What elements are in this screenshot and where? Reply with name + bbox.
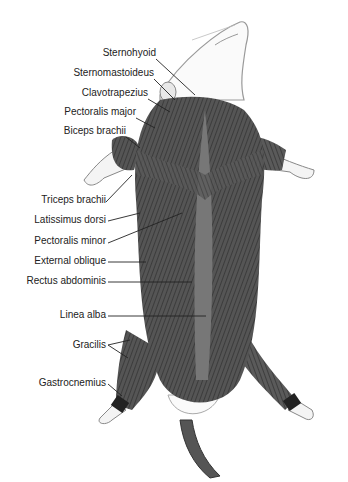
tail (168, 395, 220, 478)
label-clavotrapezius: Clavotrapezius (82, 87, 148, 99)
label-rectus-abdominis: Rectus abdominis (27, 275, 106, 287)
label-triceps-brachii: Triceps brachii (41, 194, 106, 206)
torso (135, 97, 264, 403)
label-pectoralis-minor: Pectoralis minor (34, 235, 106, 247)
label-sternomastoideus: Sternomastoideus (73, 67, 154, 79)
label-pectoralis-major: Pectoralis major (64, 106, 136, 118)
label-sternohyoid: Sternohyoid (103, 47, 156, 59)
label-latissimus-dorsi: Latissimus dorsi (34, 214, 106, 226)
label-linea-alba: Linea alba (60, 309, 106, 321)
label-external-oblique: External oblique (34, 255, 106, 267)
head (160, 22, 248, 102)
label-gastrocnemius: Gastrocnemius (39, 377, 106, 389)
label-gracilis: Gracilis (73, 339, 106, 351)
label-biceps-brachii: Biceps brachii (64, 125, 126, 137)
anatomy-figure: Sternohyoid Sternomastoideus Clavotrapez… (0, 0, 348, 482)
